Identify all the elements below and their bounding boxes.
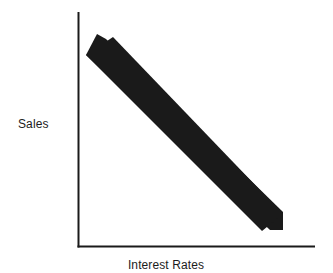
chart-plot-area	[0, 0, 333, 273]
y-axis-label: Sales	[18, 117, 49, 131]
chart-background	[0, 0, 333, 273]
x-axis-label: Interest Rates	[0, 258, 333, 272]
chart-figure: Sales Interest Rates	[0, 0, 333, 273]
